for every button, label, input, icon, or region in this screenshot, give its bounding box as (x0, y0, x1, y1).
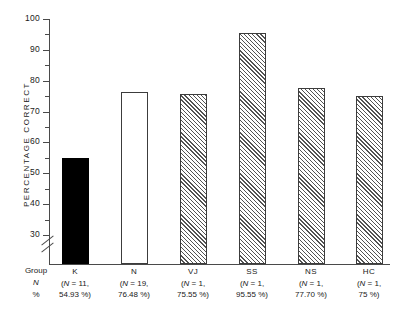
bar-k (62, 158, 89, 264)
group-name: HC (336, 266, 400, 278)
y-tick-major (43, 112, 49, 113)
group-name: K (42, 266, 108, 278)
y-tick-minor (45, 34, 49, 35)
group-n-value: (N = 1, (219, 278, 285, 290)
stats-column-hc: HC(N = 1,75 %) (336, 266, 400, 301)
stats-column-ns: NS(N = 1,77.70 %) (278, 266, 344, 301)
bar-chart-figure: PERCENTAGE CORRECT 10090807060504030 Gro… (0, 0, 400, 316)
group-percent-value: 75 %) (336, 289, 400, 301)
y-tick-minor (45, 189, 49, 190)
y-axis-line (49, 19, 50, 265)
stats-column-ss: SS(N = 1,95.55 %) (219, 266, 285, 301)
y-tick-major (43, 173, 49, 174)
stats-column-n: N(N = 19,76.48 %) (101, 266, 167, 301)
y-tick-major (43, 142, 49, 143)
group-stats-table: Group N % K(N = 11,54.93 %)N(N = 19,76.4… (0, 266, 400, 316)
y-tick-major (43, 50, 49, 51)
group-percent-value: 76.48 %) (101, 289, 167, 301)
y-tick-label: 90 (10, 44, 40, 54)
y-tick-minor (45, 65, 49, 66)
bar-n (121, 92, 148, 264)
y-tick-minor (45, 158, 49, 159)
y-tick-minor (45, 127, 49, 128)
group-n-value: (N = 1, (336, 278, 400, 290)
group-name: VJ (160, 266, 226, 278)
bar-hc (356, 96, 383, 264)
bar-ss (239, 33, 266, 264)
y-tick-label: 40 (10, 198, 40, 208)
group-n-value: (N = 1, (278, 278, 344, 290)
y-tick-major (43, 19, 49, 20)
y-tick-label: 100 (10, 13, 40, 23)
y-tick-major (43, 81, 49, 82)
y-tick-minor (45, 96, 49, 97)
y-tick-label: 80 (10, 75, 40, 85)
y-tick-label: 30 (10, 229, 40, 239)
group-name: NS (278, 266, 344, 278)
group-n-value: (N = 19, (101, 278, 167, 290)
x-axis-line (49, 264, 390, 265)
group-n-value: (N = 11, (42, 278, 108, 290)
bar-ns (298, 88, 325, 264)
y-tick-label: 50 (10, 167, 40, 177)
stats-column-vj: VJ(N = 1,75.55 %) (160, 266, 226, 301)
group-percent-value: 54.93 %) (42, 289, 108, 301)
y-tick-minor (45, 220, 49, 221)
y-tick-label: 70 (10, 106, 40, 116)
group-n-value: (N = 1, (160, 278, 226, 290)
group-percent-value: 75.55 %) (160, 289, 226, 301)
y-tick-label: 60 (10, 136, 40, 146)
y-tick-major (43, 235, 49, 236)
bar-vj (180, 94, 207, 264)
group-name: SS (219, 266, 285, 278)
group-percent-value: 95.55 %) (219, 289, 285, 301)
stats-column-k: K(N = 11,54.93 %) (42, 266, 108, 301)
y-tick-major (43, 204, 49, 205)
group-percent-value: 77.70 %) (278, 289, 344, 301)
group-name: N (101, 266, 167, 278)
